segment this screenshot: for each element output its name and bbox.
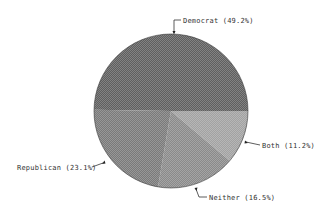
callout-republican: Republican (23.1%) bbox=[17, 161, 106, 172]
dither-overlay bbox=[94, 34, 248, 188]
callout-both: Both (11.2%) bbox=[245, 141, 315, 150]
callout-neither: Neither (16.5%) bbox=[195, 188, 276, 202]
callout-democrat: Democrat (49.2%) bbox=[173, 17, 254, 35]
label-democrat: Democrat (49.2%) bbox=[183, 17, 254, 25]
pie-chart: Democrat (49.2%) Both (11.2%) Neither (1… bbox=[0, 0, 319, 213]
label-republican: Republican (23.1%) bbox=[17, 164, 96, 172]
label-both: Both (11.2%) bbox=[262, 142, 315, 150]
label-neither: Neither (16.5%) bbox=[209, 194, 275, 202]
